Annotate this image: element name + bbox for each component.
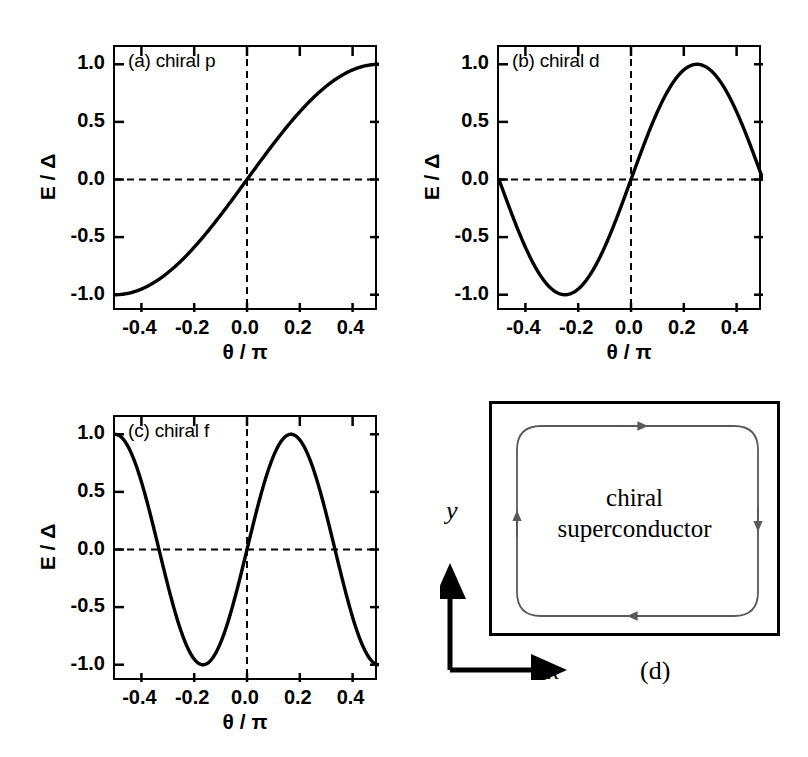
- x-tick-label: 0.0: [231, 686, 259, 709]
- y-tick-label: 0.0: [419, 166, 489, 189]
- superconductor-caption: chiral superconductor: [489, 483, 780, 544]
- y-tick-label: -1.0: [35, 281, 105, 304]
- y-tick-label: -0.5: [419, 224, 489, 247]
- x-tick-label: 0.4: [337, 316, 365, 339]
- plot-frame-b: [497, 45, 761, 310]
- x-tick-label: -0.2: [559, 316, 593, 339]
- y-tick-label: 1.0: [35, 51, 105, 74]
- plot-frame-a: [113, 45, 377, 310]
- plot-canvas-a: [115, 47, 379, 312]
- x-tick-label: -0.2: [175, 316, 209, 339]
- y-tick-label: -1.0: [419, 281, 489, 304]
- y-tick-label: 0.5: [419, 108, 489, 131]
- dispersion-curve: [631, 64, 763, 179]
- x-axis-title-a: θ / π: [223, 340, 268, 364]
- plot-canvas-b: [499, 47, 763, 312]
- x-tick-label: 0.2: [284, 316, 312, 339]
- superconductor-caption-line1: chiral: [489, 483, 780, 514]
- x-tick-label: -0.4: [122, 686, 156, 709]
- dispersion-curve: [291, 434, 379, 664]
- panel-label-b: (b) chiral d: [512, 50, 599, 72]
- y-tick-label: 0.0: [35, 536, 105, 559]
- y-tick-label: 0.5: [35, 108, 105, 131]
- y-tick-label: -0.5: [35, 594, 105, 617]
- x-tick-label: -0.2: [175, 686, 209, 709]
- y-tick-label: 1.0: [419, 51, 489, 74]
- x-tick-label: 0.2: [284, 686, 312, 709]
- x-tick-label: -0.4: [122, 316, 156, 339]
- x-axis-title-b: θ / π: [607, 340, 652, 364]
- superconductor-caption-line2: superconductor: [489, 514, 780, 545]
- y-tick-label: -0.5: [35, 224, 105, 247]
- y-tick-label: 0.5: [35, 478, 105, 501]
- figure-root: (a) chiral p E / Δ θ / π 1.00.50.0-0.5-1…: [0, 0, 808, 757]
- x-tick-label: 0.2: [668, 316, 696, 339]
- x-axis-title-c: θ / π: [223, 710, 268, 734]
- y-tick-label: 1.0: [35, 421, 105, 444]
- panel-label-d: (d): [640, 656, 670, 686]
- plot-frame-c: [113, 415, 377, 680]
- panel-label-c: (c) chiral f: [128, 420, 209, 442]
- x-tick-label: 0.0: [231, 316, 259, 339]
- x-tick-label: 0.4: [337, 686, 365, 709]
- x-axis-label-d: x: [548, 656, 560, 686]
- dispersion-curve: [499, 180, 631, 295]
- panel-label-a: (a) chiral p: [128, 50, 215, 72]
- y-tick-label: -1.0: [35, 651, 105, 674]
- y-axis-label-d: y: [446, 496, 458, 526]
- plot-canvas-c: [115, 417, 379, 682]
- x-tick-label: 0.0: [615, 316, 643, 339]
- x-tick-label: 0.4: [721, 316, 749, 339]
- y-tick-label: 0.0: [35, 166, 105, 189]
- x-tick-label: -0.4: [506, 316, 540, 339]
